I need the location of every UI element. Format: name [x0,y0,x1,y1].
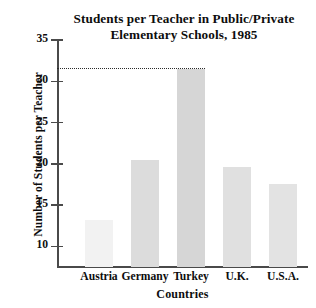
x-axis-label-usa: U.S.A. [243,270,316,283]
bar-usa [269,184,297,267]
x-axis-title: Countries [57,287,308,302]
y-axis-tick-label: 15 [26,197,48,210]
turkey-reference-line [57,68,205,69]
y-axis-tick-label: 30 [26,73,48,86]
y-axis-tick-label: 20 [26,156,48,169]
bar-austria [85,220,113,267]
chart-title: Students per Teacher in Public/Private E… [60,11,308,42]
bar-chart-figure: Students per Teacher in Public/Private E… [0,0,316,308]
y-axis-tick-label: 10 [26,238,48,251]
y-axis-tick-label: 35 [26,32,48,45]
plot-area [57,40,307,267]
bar-uk [223,167,251,267]
bar-germany [131,160,159,267]
bar-turkey [177,69,205,267]
y-axis-tick-label: 25 [26,115,48,128]
chart-title-line-1: Students per Teacher in Public/Private [74,11,295,26]
